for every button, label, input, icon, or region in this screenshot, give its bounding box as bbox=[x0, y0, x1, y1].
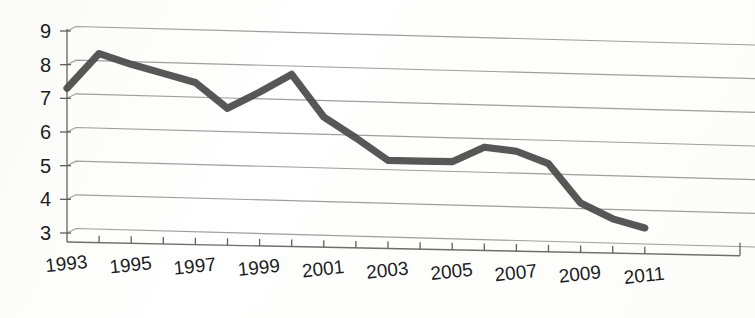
gridline-7 bbox=[67, 94, 755, 113]
gridline-6 bbox=[67, 128, 755, 147]
x-axis-label-1995: 1995 bbox=[108, 252, 152, 277]
y-axis-label-9: 9 bbox=[40, 20, 51, 42]
x-axis-label-2003: 2003 bbox=[365, 257, 409, 282]
y-axis-label-5: 5 bbox=[40, 155, 51, 177]
gridlines-group bbox=[67, 27, 755, 248]
chart-container: 3456789 19931995199719992001200320052007… bbox=[0, 0, 755, 318]
x-axis-label-2005: 2005 bbox=[429, 259, 473, 284]
y-axis-label-6: 6 bbox=[40, 121, 51, 143]
x-axis-label-1993: 1993 bbox=[44, 251, 88, 276]
x-axis-label-2009: 2009 bbox=[558, 261, 602, 286]
gridline-4 bbox=[67, 195, 755, 214]
x-axis-label-1999: 1999 bbox=[237, 255, 281, 280]
x-axis-label-2007: 2007 bbox=[494, 260, 538, 285]
y-axis-label-8: 8 bbox=[40, 54, 51, 76]
y-axis-label-4: 4 bbox=[40, 188, 51, 210]
x-axis-label-2001: 2001 bbox=[301, 256, 345, 281]
x-axis-label-2011: 2011 bbox=[623, 263, 666, 288]
gridline-9 bbox=[67, 27, 755, 46]
y-axis-label-7: 7 bbox=[40, 87, 51, 109]
y-axis-label-3: 3 bbox=[40, 222, 51, 244]
y-axis-labels: 3456789 bbox=[40, 20, 51, 244]
x-axis-labels: 1993199519971999200120032005200720092011 bbox=[44, 251, 665, 288]
line-chart: 3456789 19931995199719992001200320052007… bbox=[0, 0, 755, 318]
y-tick-marks bbox=[60, 31, 71, 233]
x-axis-label-1997: 1997 bbox=[173, 253, 217, 278]
